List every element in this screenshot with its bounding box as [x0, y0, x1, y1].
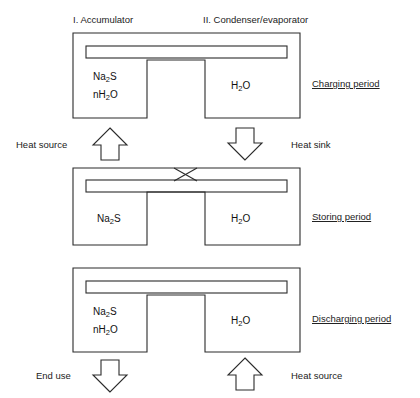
storing-period-label: Storing period: [312, 211, 371, 222]
charging-heat-source-arrow-up: [93, 128, 127, 160]
discharging-formula-na2s: Na2S: [93, 306, 117, 317]
storing-vapour-channel: [86, 180, 287, 192]
stage-storing-shape: [73, 168, 300, 245]
discharging-end-use-arrow-down: [93, 360, 127, 392]
discharging-heat-source-label: Heat source: [291, 370, 342, 381]
charging-vapour-channel: [86, 46, 287, 58]
discharging-formula-h2o: H2O: [231, 315, 250, 326]
discharging-condenser-formula: H2O: [231, 314, 250, 331]
discharging-accumulator-formula: Na2S: [93, 305, 117, 322]
discharging-period-label: Discharging period: [312, 313, 391, 324]
discharging-end-use-label: End use: [36, 370, 71, 381]
storing-formula-h2o: H2O: [231, 213, 250, 224]
storing-formula-na2s: Na2S: [97, 213, 121, 224]
charging-accumulator-hydrate: nH2O: [93, 88, 118, 105]
charging-formula-nh2o: nH2O: [93, 89, 118, 100]
discharging-formula-nh2o: nH2O: [93, 324, 118, 335]
storing-accumulator-formula: Na2S: [97, 212, 121, 229]
diagram-canvas: I. Accumulator II. Condenser/evaporator: [0, 0, 420, 398]
charging-condenser-formula: H2O: [231, 79, 250, 96]
charging-period-label: Charging period: [312, 78, 380, 89]
storing-condenser-formula: H2O: [231, 212, 250, 229]
storing-valve-closed-cross: [174, 168, 197, 181]
charging-heat-sink-label: Heat sink: [291, 139, 331, 150]
charging-formula-na2s: Na2S: [93, 71, 117, 82]
diagram-vector-layer: [0, 0, 420, 398]
charging-heat-sink-arrow-down: [228, 128, 262, 160]
charging-formula-h2o: H2O: [231, 80, 250, 91]
charging-heat-source-label: Heat source: [16, 139, 67, 150]
charging-accumulator-formula: Na2S: [93, 70, 117, 87]
discharging-vapour-channel: [86, 281, 287, 293]
discharging-accumulator-hydrate: nH2O: [93, 323, 118, 340]
discharging-heat-source-arrow-up: [228, 358, 262, 390]
